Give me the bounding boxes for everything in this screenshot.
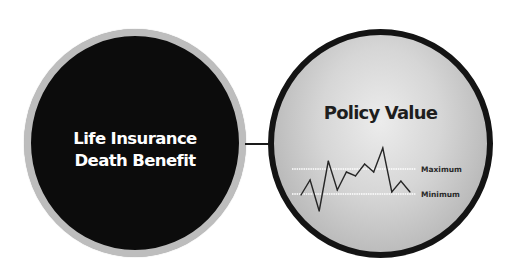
death-benefit-label-line1: Life Insurance (31, 128, 239, 150)
connector-line (245, 143, 270, 145)
death-benefit-circle: Life Insurance Death Benefit (24, 29, 246, 257)
death-benefit-label: Life Insurance Death Benefit (31, 128, 239, 172)
policy-value-title: Policy Value (274, 102, 487, 123)
policy-value-circle: Policy Value (268, 29, 493, 258)
diagram: Life Insurance Death Benefit Policy Valu… (0, 0, 516, 277)
death-benefit-label-line2: Death Benefit (31, 150, 239, 172)
